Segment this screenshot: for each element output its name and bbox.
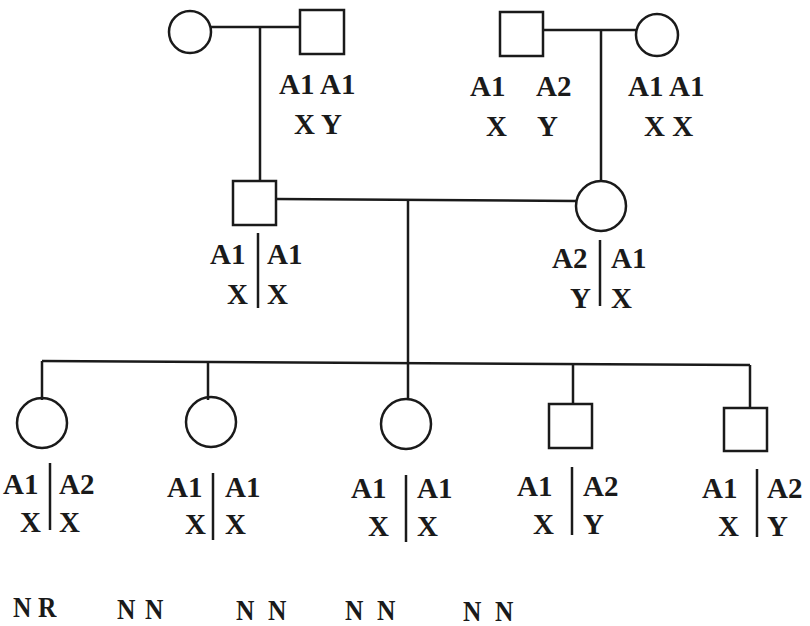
g2-male-allele-right: A1 — [267, 240, 302, 269]
g3-child-3-status-1: N — [236, 595, 254, 625]
g3-child-2-status-1: N — [117, 594, 135, 624]
g2-female-chrom-right: X — [611, 284, 632, 313]
g3-child-4-allele-right: A2 — [583, 472, 618, 501]
g3-child-1-allele-right: A2 — [59, 470, 94, 499]
g1-left-female-symbol — [169, 11, 211, 53]
g1-left-male-alleles: A1 A1 — [279, 70, 356, 99]
g3-child-5-status-2: N — [495, 596, 513, 626]
g3-child-4-status-1: N — [345, 595, 363, 625]
g1-right-male-allele-1: A1 — [470, 72, 505, 101]
g1-right-female-alleles: A1 A1 — [628, 72, 705, 101]
g3-child-4-chrom-right: Y — [583, 510, 604, 539]
g1-right-female-symbol — [636, 14, 678, 56]
g3-child-5-symbol — [724, 408, 767, 451]
g3-child-1-chrom-right: X — [59, 508, 80, 537]
g1-left-male-chromosomes: X Y — [294, 110, 342, 139]
g3-child-5-chrom-right: Y — [767, 512, 788, 541]
g3-child-5-status-1: N — [463, 596, 481, 626]
g3-child-5-allele-right: A2 — [767, 474, 802, 503]
g3-child-4-chrom-left: X — [533, 510, 554, 539]
g2-male-chrom-left: X — [227, 280, 248, 309]
g3-child-4-allele-left: A1 — [517, 472, 552, 501]
g3-child-5-allele-left: A1 — [702, 474, 737, 503]
g3-child-3-chrom-right: X — [417, 512, 438, 541]
g2-female-allele-left: A2 — [552, 244, 587, 273]
g3-child-3-status-2: N — [268, 595, 286, 625]
g3-child-2-status-2: N — [145, 594, 163, 624]
g2-male-allele-left: A1 — [210, 240, 245, 269]
g3-child-3-allele-left: A1 — [351, 474, 386, 503]
g3-child-3-symbol — [381, 399, 431, 449]
g3-child-2-allele-right: A1 — [225, 473, 260, 502]
g2-male-symbol — [233, 181, 276, 225]
g1-right-female-chromosomes: X X — [644, 112, 693, 141]
g2-female-chrom-left: Y — [570, 284, 591, 313]
g1-left-male-symbol — [300, 10, 344, 54]
g2-female-symbol — [576, 181, 626, 231]
g3-sibship-line — [42, 361, 750, 365]
g3-child-2-allele-left: A1 — [167, 473, 202, 502]
g3-child-2-symbol — [186, 397, 236, 447]
g2-female-allele-right: A1 — [611, 244, 646, 273]
g2-male-chrom-right: X — [267, 280, 288, 309]
g3-child-5-chrom-left: X — [718, 512, 739, 541]
g3-child-4-status-2: N — [377, 595, 395, 625]
g3-child-1-status-2: R — [38, 592, 56, 622]
g1-right-male-chrom-1: X — [486, 112, 507, 141]
g1-right-male-chrom-2: Y — [537, 112, 558, 141]
g1-right-male-allele-2: A2 — [536, 72, 571, 101]
g2-marriage-line — [276, 199, 576, 201]
g3-child-3-allele-right: A1 — [417, 474, 452, 503]
g3-child-3-chrom-left: X — [368, 512, 389, 541]
g3-child-4-symbol — [549, 404, 592, 448]
g3-child-1-status-1: N — [13, 592, 31, 622]
g3-child-1-symbol — [17, 398, 67, 448]
g1-right-male-symbol — [500, 12, 543, 56]
g3-child-2-chrom-right: X — [225, 510, 246, 539]
g3-child-1-allele-left: A1 — [3, 470, 38, 499]
g3-child-1-chrom-left: X — [20, 508, 41, 537]
g3-child-2-chrom-left: X — [185, 510, 206, 539]
